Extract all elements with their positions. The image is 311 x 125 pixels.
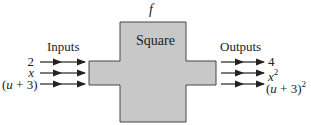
function-name: f bbox=[149, 3, 153, 16]
input-arrows bbox=[40, 62, 85, 84]
input-item: (u + 3) bbox=[2, 78, 38, 91]
output-arrows bbox=[221, 62, 264, 84]
output-item: (u + 3)2 bbox=[266, 78, 306, 95]
inputs-heading: Inputs bbox=[47, 40, 80, 53]
outputs-heading: Outputs bbox=[220, 40, 261, 53]
function-label: Square bbox=[136, 34, 175, 47]
function-machine-diagram bbox=[0, 0, 311, 125]
